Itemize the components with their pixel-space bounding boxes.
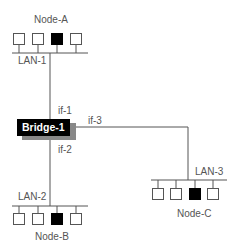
if-1-label: if-1 <box>58 105 72 116</box>
node-a-label: Node-A <box>34 14 68 25</box>
bridge-label: Bridge-1 <box>22 121 65 133</box>
lan-3-label: LAN-3 <box>195 166 224 177</box>
lan-2-label: LAN-2 <box>18 191 47 202</box>
host-icon <box>71 214 82 225</box>
network-diagram: Node-A LAN-1 Bridge-1 if-1 if-3 if-2 LAN… <box>0 0 242 249</box>
host-icon <box>153 189 164 200</box>
lan-3-segment: LAN-3 Node-C <box>151 166 227 219</box>
host-icon <box>14 214 25 225</box>
host-icon <box>71 34 82 45</box>
bridge-1: Bridge-1 <box>17 119 76 140</box>
node-a-host-icon <box>52 34 63 45</box>
host-icon <box>14 34 25 45</box>
if-3-link <box>70 127 188 180</box>
host-icon <box>33 214 44 225</box>
host-icon <box>208 189 219 200</box>
lan-1-label: LAN-1 <box>18 55 47 66</box>
if-3-label: if-3 <box>88 115 102 126</box>
if-2-label: if-2 <box>58 144 72 155</box>
node-b-label: Node-B <box>35 231 69 242</box>
host-icon <box>33 34 44 45</box>
node-b-host-icon <box>52 214 63 225</box>
node-c-label: Node-C <box>177 208 211 219</box>
host-icon <box>171 189 182 200</box>
node-c-host-icon <box>190 189 201 200</box>
